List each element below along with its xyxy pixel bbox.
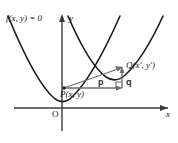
y-axis-arrowhead (59, 14, 65, 22)
curve-equation-label: f(x, y) = 0 (6, 14, 42, 23)
point-q-label: Q(x′, y′) (126, 61, 155, 70)
figure-canvas: f(x, y) = 0 y x O P(x, y) Q(x′, y′) p q (0, 0, 178, 143)
y-axis (59, 14, 65, 131)
x-axis-label: x (166, 110, 170, 119)
x-axis (14, 105, 168, 111)
point-p-label: P(x, y) (60, 90, 84, 99)
vector-p-label: p (98, 78, 104, 87)
vector-q-label: q (126, 78, 132, 87)
y-axis-label: y (69, 14, 73, 23)
origin-label: O (52, 110, 59, 119)
